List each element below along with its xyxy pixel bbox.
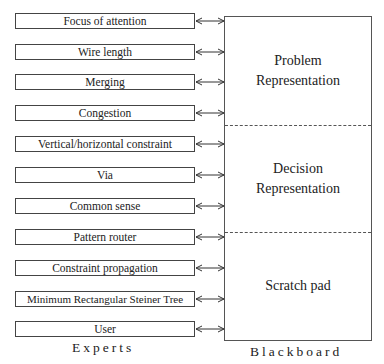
section-title: Scratch pad bbox=[265, 276, 331, 296]
section-title: Decision bbox=[256, 159, 340, 179]
expert-focus-of-attention: Focus of attention bbox=[15, 13, 195, 29]
double-arrow-icon bbox=[195, 263, 225, 273]
double-arrow-icon bbox=[195, 108, 225, 118]
expert-via: Via bbox=[15, 167, 195, 183]
double-arrow-icon bbox=[195, 170, 225, 180]
expert-wire-length: Wire length bbox=[15, 44, 195, 60]
section-scratch-pad: Scratch pad bbox=[225, 232, 371, 340]
expert-common-sense: Common sense bbox=[15, 198, 195, 214]
double-arrow-icon bbox=[195, 232, 225, 242]
double-arrow-icon bbox=[195, 324, 225, 334]
double-arrow-icon bbox=[195, 47, 225, 57]
blackboard: ProblemRepresentation DecisionRepresenta… bbox=[224, 16, 372, 341]
expert-pattern-router: Pattern router bbox=[15, 229, 195, 245]
blackboard-caption: Blackboard bbox=[250, 344, 342, 360]
experts-caption: Experts bbox=[72, 340, 134, 356]
double-arrow-icon bbox=[195, 77, 225, 87]
expert-vertical-horizontal-constraint: Vertical/horizontal constraint bbox=[15, 136, 195, 152]
expert-congestion: Congestion bbox=[15, 105, 195, 121]
section-title: Problem bbox=[256, 51, 340, 71]
expert-minimum-rectangular-steiner-tree: Minimum Rectangular Steiner Tree bbox=[15, 291, 195, 307]
double-arrow-icon bbox=[195, 139, 225, 149]
section-problem-representation: ProblemRepresentation bbox=[225, 17, 371, 125]
double-arrow-icon bbox=[195, 16, 225, 26]
expert-constraint-propagation: Constraint propagation bbox=[15, 260, 195, 276]
double-arrow-icon bbox=[195, 201, 225, 211]
section-decision-representation: DecisionRepresentation bbox=[225, 125, 371, 232]
double-arrow-icon bbox=[195, 294, 225, 304]
section-title: Representation bbox=[256, 179, 340, 199]
section-title: Representation bbox=[256, 71, 340, 91]
expert-merging: Merging bbox=[15, 74, 195, 90]
expert-user: User bbox=[15, 321, 195, 337]
